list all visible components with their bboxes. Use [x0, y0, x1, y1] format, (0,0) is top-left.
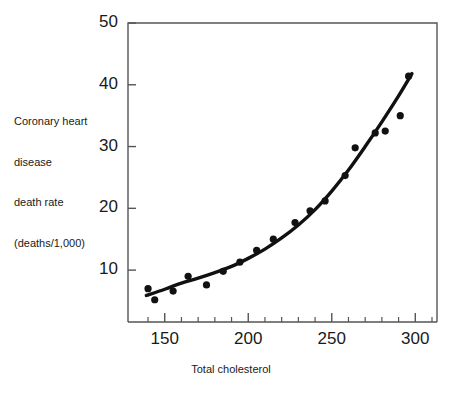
fitted-curve: [146, 74, 412, 296]
data-point: [306, 207, 313, 214]
data-point: [372, 129, 379, 136]
x-axis-tick-label: 200: [225, 329, 271, 349]
data-point: [151, 296, 158, 303]
data-point: [253, 247, 260, 254]
regression-curve: [146, 74, 412, 296]
data-point: [185, 273, 192, 280]
data-point: [352, 144, 359, 151]
data-point: [203, 281, 210, 288]
y-axis-label-line-2: disease: [14, 156, 126, 170]
x-axis-tick-label: 300: [392, 329, 438, 349]
data-point: [405, 73, 412, 80]
y-axis-tick-label: 50: [84, 12, 118, 32]
chart-figure: Coronary heart disease death rate (death…: [0, 0, 462, 393]
data-point: [236, 258, 243, 265]
x-axis-tick-label: 150: [142, 329, 188, 349]
plot-frame: [128, 23, 437, 322]
y-axis-label-line-1: Coronary heart: [14, 115, 126, 129]
data-point: [170, 288, 177, 295]
data-point: [382, 128, 389, 135]
data-points: [144, 73, 412, 304]
axis-ticks: [128, 23, 432, 322]
y-axis-tick-label: 40: [84, 74, 118, 94]
data-point: [220, 268, 227, 275]
data-point: [144, 285, 151, 292]
y-axis-tick-label: 30: [84, 136, 118, 156]
plot-frame-border: [128, 23, 437, 322]
data-point: [397, 112, 404, 119]
x-axis-title: Total cholesterol: [0, 363, 462, 375]
data-point: [321, 197, 328, 204]
y-axis-label: Coronary heart disease death rate (death…: [14, 88, 126, 277]
data-point: [270, 236, 277, 243]
data-point: [342, 172, 349, 179]
y-axis-tick-label: 10: [84, 259, 118, 279]
y-axis-tick-label: 20: [84, 197, 118, 217]
data-point: [291, 219, 298, 226]
x-axis-tick-label: 250: [309, 329, 355, 349]
y-axis-label-line-4: (deaths/1,000): [14, 237, 126, 251]
